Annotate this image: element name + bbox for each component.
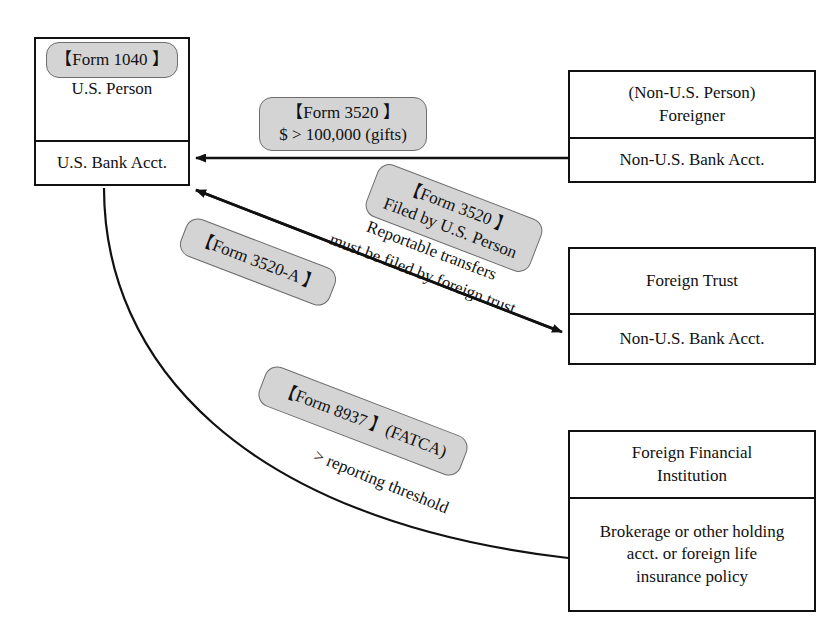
entity-head-foreign-trust: Foreign Trust [570, 249, 814, 315]
entity-line: Institution [657, 465, 727, 487]
entity-line: Non-U.S. Bank Acct. [620, 328, 765, 350]
entity-line: Foreigner [659, 105, 725, 127]
entity-box-foreign-financial-institution[interactable]: Foreign Financial Institution Brokerage … [568, 430, 816, 612]
form-tag-line: 【Form 3520 】 [286, 102, 399, 124]
entity-body-ffi: Brokerage or other holding acct. or fore… [570, 499, 814, 610]
entity-line: U.S. Person [72, 78, 153, 100]
entity-line: insurance policy [636, 566, 748, 588]
diagram-canvas: U.S. Person U.S. Bank Acct. (Non-U.S. Pe… [0, 0, 836, 641]
entity-body-foreigner: Non-U.S. Bank Acct. [570, 139, 814, 181]
entity-body-us-person: U.S. Bank Acct. [36, 142, 188, 184]
entity-body-foreign-trust: Non-U.S. Bank Acct. [570, 315, 814, 363]
form-tag-form-1040[interactable]: 【Form 1040 】 [46, 42, 178, 78]
entity-line: Foreign Trust [646, 270, 738, 292]
form-tag-line: 【Form 1040 】 [55, 49, 168, 71]
form-tag-line: $ > 100,000 (gifts) [279, 124, 407, 146]
form-tag-form-3520-gift[interactable]: 【Form 3520 】 $ > 100,000 (gifts) [259, 97, 427, 151]
entity-head-foreigner: (Non-U.S. Person) Foreigner [570, 72, 814, 139]
entity-box-foreigner[interactable]: (Non-U.S. Person) Foreigner Non-U.S. Ban… [568, 70, 816, 183]
entity-line: acct. or foreign life [627, 543, 757, 565]
entity-line: Non-U.S. Bank Acct. [620, 149, 765, 171]
entity-head-ffi: Foreign Financial Institution [570, 432, 814, 499]
entity-line: Foreign Financial [632, 442, 752, 464]
entity-line: (Non-U.S. Person) [628, 82, 755, 104]
entity-line: Brokerage or other holding [600, 521, 785, 543]
entity-line: U.S. Bank Acct. [57, 152, 167, 174]
entity-box-foreign-trust[interactable]: Foreign Trust Non-U.S. Bank Acct. [568, 247, 816, 365]
